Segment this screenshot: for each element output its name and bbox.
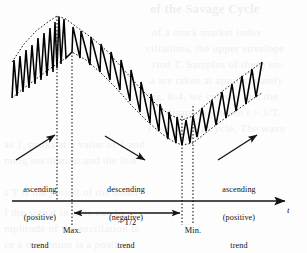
- trend-label-line-3: trend: [90, 241, 162, 250]
- trend-label-line-1: descending: [90, 185, 162, 194]
- trend-label-line-2: (positive): [4, 213, 76, 222]
- arrow-ascending-left: [16, 135, 55, 160]
- half-period-label: ~ T/2: [104, 218, 150, 227]
- trend-label-line-1: ascending: [4, 185, 76, 194]
- trend-label-ascending-right: ascending (positive) trend: [203, 166, 275, 253]
- arrow-ascending-right: [218, 135, 257, 160]
- axis-variable-label: t: [287, 205, 290, 215]
- trend-label-line-3: trend: [4, 241, 76, 250]
- trend-label-line-3: trend: [203, 241, 275, 250]
- arrow-descending-middle: [105, 136, 145, 160]
- figure-container: of the Savage Cycle of a stock market in…: [0, 0, 307, 253]
- trend-label-line-2: (positive): [203, 213, 275, 222]
- trend-label-ascending-left: ascending (positive) trend: [4, 166, 76, 253]
- sawtooth-signal: [12, 17, 262, 145]
- tick-label-max: Max.: [52, 226, 92, 235]
- tick-label-min: Min.: [173, 226, 213, 235]
- trend-label-line-1: ascending: [203, 185, 275, 194]
- trend-label-descending-middle: descending (negative) trend: [90, 166, 162, 253]
